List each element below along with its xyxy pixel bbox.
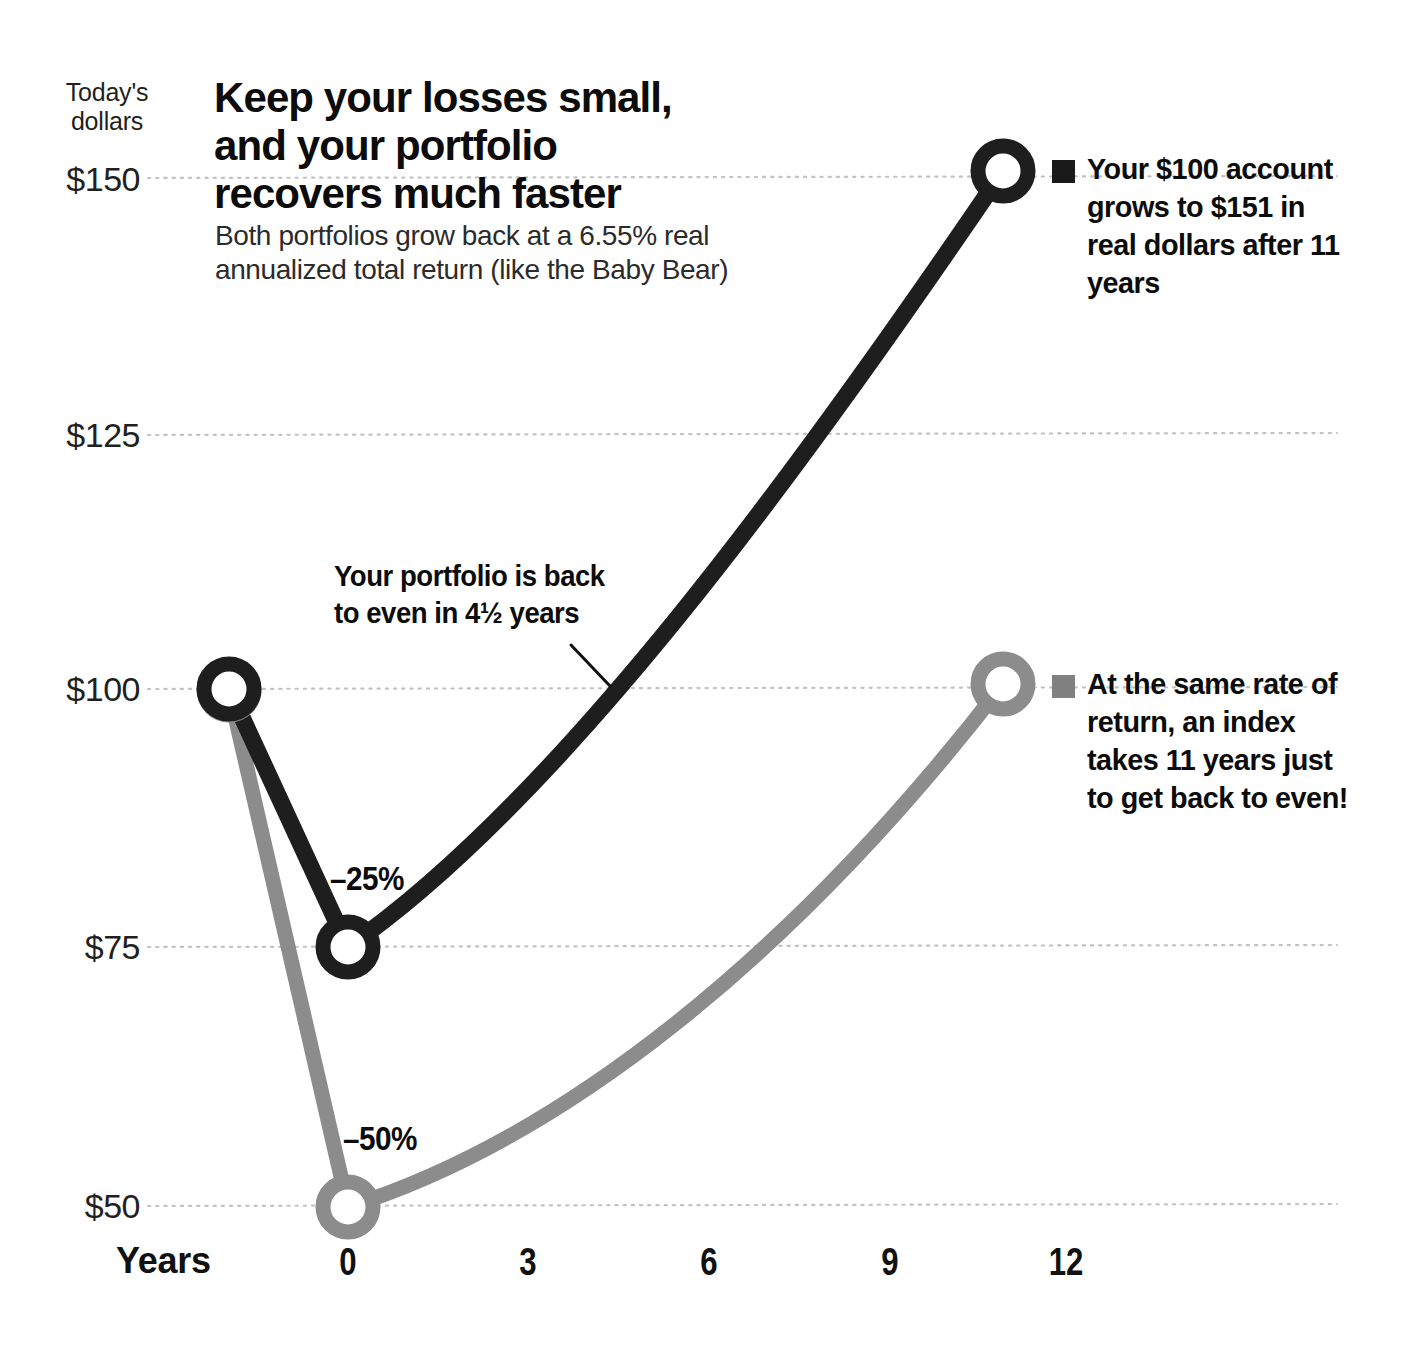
chart-title: Keep your losses small, and your portfol… — [214, 74, 734, 218]
black-line-drop — [229, 689, 348, 947]
annotation-leader-line — [571, 645, 610, 686]
marker-black-trough — [323, 922, 373, 972]
y-tick-label-75: $75 — [30, 930, 140, 964]
annotation-breakeven: Your portfolio is back to even in 4½ yea… — [334, 558, 619, 632]
chart-canvas: Today's dollars $150 $125 $100 $75 $50 K… — [0, 0, 1401, 1348]
chart-subtitle: Both portfolios grow back at a 6.55% rea… — [215, 219, 775, 287]
marker-gray-end — [978, 659, 1028, 709]
y-tick-label-125: $125 — [30, 418, 140, 452]
gridline-125 — [148, 433, 1337, 435]
x-tick-label-12: 12 — [1033, 1243, 1099, 1281]
legend-item-index[interactable]: At the same rate of return, an index tak… — [1052, 665, 1372, 817]
y-tick-label-150: $150 — [30, 162, 140, 196]
legend-label-index: At the same rate of return, an index tak… — [1087, 665, 1361, 817]
y-tick-label-50: $50 — [30, 1189, 140, 1223]
x-tick-label-9: 9 — [857, 1243, 923, 1281]
y-tick-label-100: $100 — [30, 672, 140, 706]
legend-swatch-black-icon — [1052, 160, 1075, 183]
x-axis-title: Years — [116, 1243, 211, 1279]
x-tick-label-0: 0 — [315, 1243, 381, 1281]
legend-item-your-account[interactable]: Your $100 account grows to $151 in real … — [1052, 150, 1372, 302]
marker-black-start — [204, 664, 254, 714]
marker-black-end — [978, 146, 1028, 196]
data-label-black-trough: –25% — [330, 862, 404, 895]
x-tick-label-6: 6 — [676, 1243, 742, 1281]
marker-gray-trough — [323, 1182, 373, 1232]
legend-label-your-account: Your $100 account grows to $151 in real … — [1087, 150, 1361, 302]
data-label-gray-trough: –50% — [343, 1122, 417, 1155]
legend-swatch-gray-icon — [1052, 675, 1075, 698]
x-tick-label-3: 3 — [495, 1243, 561, 1281]
y-axis-unit-note: Today's dollars — [62, 78, 152, 136]
